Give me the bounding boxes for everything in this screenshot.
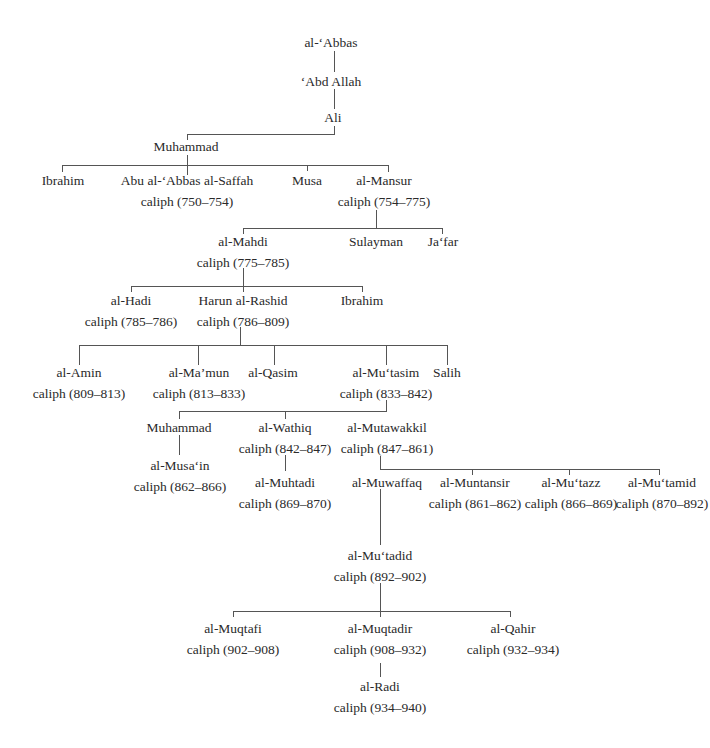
reign-dates: caliph (862–866): [134, 476, 227, 497]
person-name: al-Mahdi: [197, 231, 290, 252]
node-al-muntansir: al-Muntansir caliph (861–862): [429, 472, 522, 514]
node-al-saffah: Abu al-‘Abbas al-Saffah caliph (750–754): [121, 170, 253, 212]
reign-dates: caliph (785–786): [85, 311, 178, 332]
reign-dates: caliph (842–847): [239, 438, 332, 459]
node-al-muwaffaq: al-Muwaffaq: [352, 472, 422, 493]
connector-line: [131, 286, 363, 287]
node-harun-al-rashid: Harun al-Rashid caliph (786–809): [197, 290, 290, 332]
connector-line: [334, 89, 335, 109]
person-name: al-Muntansir: [429, 472, 522, 493]
person-name: Salih: [433, 362, 461, 383]
person-name: Muhammad: [153, 136, 218, 157]
node-ali: Ali: [324, 107, 341, 128]
connector-line: [380, 489, 381, 545]
person-name: Harun al-Rashid: [197, 290, 290, 311]
connector-line: [380, 469, 660, 470]
person-name: al-Mu‘tamid: [616, 472, 709, 493]
reign-dates: caliph (902–908): [187, 639, 280, 660]
node-sulayman: Sulayman: [349, 231, 403, 252]
reign-dates: caliph (861–862): [429, 493, 522, 514]
reign-dates: caliph (786–809): [197, 311, 290, 332]
person-name: al-Mu‘tasim: [340, 362, 433, 383]
reign-dates: caliph (892–902): [334, 566, 427, 587]
node-al-musain: al-Musa‘in caliph (862–866): [134, 455, 227, 497]
family-tree-diagram: al-‘Abbas ‘Abd Allah Ali Muhammad Ibrahi…: [0, 0, 710, 748]
reign-dates: caliph (754–775): [338, 191, 431, 212]
person-name: al-Radi: [334, 676, 427, 697]
reign-dates: caliph (847–861): [341, 438, 434, 459]
node-abd-allah: ‘Abd Allah: [301, 71, 361, 92]
node-al-mutawakkil: al-Mutawakkil caliph (847–861): [341, 417, 434, 459]
node-al-qasim: al-Qasim: [248, 362, 298, 383]
person-name: al-Qahir: [467, 618, 560, 639]
person-name: al-Muqtafi: [187, 618, 280, 639]
node-muhammad-2: Muhammad: [146, 417, 211, 438]
connector-line: [510, 611, 511, 617]
reign-dates: caliph (833–842): [340, 383, 433, 404]
person-name: al-Hadi: [85, 290, 178, 311]
reign-dates: caliph (869–870): [239, 493, 332, 514]
reign-dates: caliph (750–754): [121, 191, 253, 212]
node-al-mahdi: al-Mahdi caliph (775–785): [197, 231, 290, 273]
connector-line: [376, 210, 377, 228]
person-name: al-Mu‘tazz: [525, 472, 618, 493]
node-al-muqtadir: al-Muqtadir caliph (908–932): [334, 618, 427, 660]
reign-dates: caliph (870–892): [616, 493, 709, 514]
connector-line: [179, 411, 387, 412]
person-name: al-Mansur: [338, 170, 431, 191]
node-musa: Musa: [292, 170, 322, 191]
connector-line: [79, 345, 448, 346]
person-name: al-‘Abbas: [304, 32, 357, 53]
person-name: al-Amin: [33, 362, 126, 383]
person-name: al-Mutawakkil: [341, 417, 434, 438]
reign-dates: caliph (809–813): [33, 383, 126, 404]
person-name: al-Muqtadir: [334, 618, 427, 639]
node-al-muqtafi: al-Muqtafi caliph (902–908): [187, 618, 280, 660]
person-name: ‘Abd Allah: [301, 71, 361, 92]
connector-line: [179, 435, 180, 455]
node-jafar: Ja‘far: [428, 231, 459, 252]
node-al-mutamid: al-Mu‘tamid caliph (870–892): [616, 472, 709, 514]
reign-dates: caliph (932–934): [467, 639, 560, 660]
node-al-mutazz: al-Mu‘tazz caliph (866–869): [525, 472, 618, 514]
person-name: al-Wathiq: [239, 417, 332, 438]
node-al-wathiq: al-Wathiq caliph (842–847): [239, 417, 332, 459]
connector-line: [62, 165, 389, 166]
reign-dates: caliph (934–940): [334, 697, 427, 718]
person-name: al-Muwaffaq: [352, 472, 422, 493]
person-name: Muhammad: [146, 417, 211, 438]
connector-line: [233, 611, 511, 612]
person-name: al-Ma’mun: [153, 362, 246, 383]
node-al-radi: al-Radi caliph (934–940): [334, 676, 427, 718]
connector-line: [380, 663, 381, 677]
person-name: al-Musa‘in: [134, 455, 227, 476]
person-name: al-Qasim: [248, 362, 298, 383]
person-name: Ja‘far: [428, 231, 459, 252]
connector-line: [233, 611, 234, 617]
node-ibrahim-2: Ibrahim: [341, 290, 384, 311]
node-al-hadi: al-Hadi caliph (785–786): [85, 290, 178, 332]
reign-dates: caliph (775–785): [197, 252, 290, 273]
person-name: Sulayman: [349, 231, 403, 252]
node-al-qahir: al-Qahir caliph (932–934): [467, 618, 560, 660]
reign-dates: caliph (908–932): [334, 639, 427, 660]
node-al-mamun: al-Ma’mun caliph (813–833): [153, 362, 246, 404]
node-al-muhtadi: al-Muhtadi caliph (869–870): [239, 472, 332, 514]
person-name: Ibrahim: [341, 290, 384, 311]
person-name: al-Mu‘tadid: [334, 545, 427, 566]
node-salih: Salih: [433, 362, 461, 383]
person-name: al-Muhtadi: [239, 472, 332, 493]
connector-line: [187, 134, 335, 135]
connector-line: [243, 228, 443, 229]
node-al-amin: al-Amin caliph (809–813): [33, 362, 126, 404]
connector-line: [334, 51, 335, 72]
node-al-mutasim: al-Mu‘tasim caliph (833–842): [340, 362, 433, 404]
reign-dates: caliph (813–833): [153, 383, 246, 404]
reign-dates: caliph (866–869): [525, 493, 618, 514]
person-name: Abu al-‘Abbas al-Saffah: [121, 170, 253, 191]
node-al-abbas: al-‘Abbas: [304, 32, 357, 53]
node-al-mutadid: al-Mu‘tadid caliph (892–902): [334, 545, 427, 587]
node-ibrahim: Ibrahim: [42, 170, 85, 191]
person-name: Ibrahim: [42, 170, 85, 191]
node-al-mansur: al-Mansur caliph (754–775): [338, 170, 431, 212]
